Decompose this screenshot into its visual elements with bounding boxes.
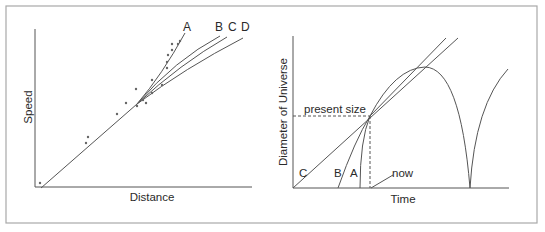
label-curve-a: A: [183, 20, 191, 34]
right-y-axis-label: Diameter of Universe: [277, 58, 289, 166]
curve-b: [137, 36, 220, 104]
data-points: [39, 40, 181, 184]
label-c: C: [299, 167, 307, 179]
label-curve-b: B: [215, 20, 223, 34]
curve-d: [137, 38, 243, 104]
label-a: A: [350, 167, 358, 179]
present-size-label: present size: [304, 103, 366, 115]
left-y-axis-label: Speed: [22, 90, 34, 123]
left-chart: [35, 29, 252, 188]
left-x-axis-label: Distance: [130, 191, 175, 203]
fit-line-trunk: [41, 104, 137, 188]
figure: A B C D Distance Speed present size now …: [0, 0, 545, 232]
curve-a-next-cycle: [470, 69, 508, 188]
curve-a-cycle: [360, 67, 470, 188]
label-curve-d: D: [241, 20, 250, 34]
label-b: B: [334, 167, 342, 179]
right-x-axis-label: Time: [390, 193, 415, 205]
now-leader-line: [371, 175, 393, 188]
label-curve-c: C: [228, 20, 237, 34]
now-label: now: [392, 167, 414, 179]
